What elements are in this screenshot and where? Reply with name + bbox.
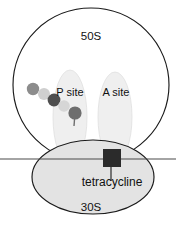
tetracycline-marker <box>103 149 121 167</box>
peptide-bead <box>68 106 81 119</box>
label-tetracycline: tetracycline <box>82 175 143 189</box>
label-a-site: A site <box>103 86 130 98</box>
peptide-bead <box>27 83 39 95</box>
label-50s: 50S <box>81 30 102 42</box>
peptide-bead <box>58 100 70 112</box>
label-30s: 30S <box>81 201 102 213</box>
label-p-site: P site <box>56 86 83 98</box>
ribosome-tetracycline-diagram: 50S P site A site tetracycline 30S <box>0 0 185 235</box>
